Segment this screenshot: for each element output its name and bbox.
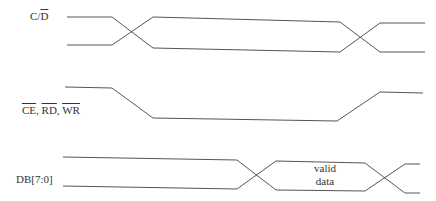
waveform-cd xyxy=(67,17,425,52)
timing-diagram: C/D CE, RD, WR DB[7:0] valid data xyxy=(0,0,436,201)
waveform-db xyxy=(63,157,420,193)
valid-label: valid xyxy=(314,162,336,174)
data-label: data xyxy=(316,175,334,187)
waveform-ce-rd-wr xyxy=(65,87,423,121)
waveforms: valid data xyxy=(0,0,436,201)
